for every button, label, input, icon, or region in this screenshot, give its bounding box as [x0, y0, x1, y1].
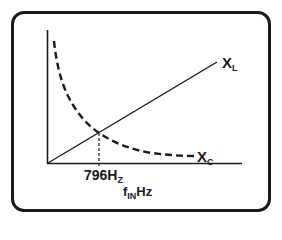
x-axis-title: fINHz — [123, 185, 152, 198]
xl-label: XL — [222, 55, 238, 70]
xc-label: XC — [197, 149, 214, 164]
crossover-frequency-label: 796HZ — [84, 168, 123, 182]
xl-line — [48, 62, 217, 163]
xc-curve — [54, 41, 194, 156]
